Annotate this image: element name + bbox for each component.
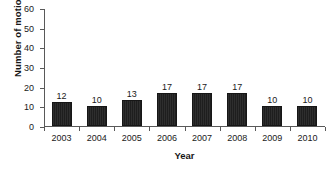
- bar-value-label: 17: [232, 82, 242, 92]
- bar-slot: 17: [185, 9, 220, 126]
- bar-slot: 10: [290, 9, 325, 126]
- x-axis-tick-label: 2006: [149, 133, 184, 143]
- x-axis-title: Year: [44, 150, 325, 161]
- y-axis-tick-label: 50: [24, 24, 34, 34]
- bar-value-label: 10: [267, 95, 277, 105]
- bar-slot: 13: [114, 9, 149, 126]
- x-axis-tick-label: 2005: [114, 133, 149, 143]
- bar-value-label: 10: [92, 95, 102, 105]
- x-axis-tick: [79, 127, 80, 131]
- y-axis-tick-label: 10: [24, 102, 34, 112]
- x-axis-tick: [149, 127, 150, 131]
- x-axis-tick-label: 2007: [185, 133, 220, 143]
- x-axis-tick: [114, 127, 115, 131]
- bar-value-label: 17: [197, 82, 207, 92]
- x-axis-tick-label: 2009: [255, 133, 290, 143]
- bar-chart-figure: Number of motions 6050403020100 12101317…: [0, 0, 333, 171]
- y-axis-tick-label: 40: [24, 43, 34, 53]
- y-axis-tick-label: 60: [24, 4, 34, 14]
- y-axis-tick-label: 0: [29, 122, 34, 132]
- x-axis-tick: [255, 127, 256, 131]
- bar-value-label: 17: [162, 82, 172, 92]
- y-axis-tick-label: 30: [24, 63, 34, 73]
- bar-slot: 12: [44, 9, 79, 126]
- bar-slot: 17: [220, 9, 255, 126]
- x-axis-tick: [185, 127, 186, 131]
- bar-slot: 17: [149, 9, 184, 126]
- y-axis-title: Number of motions: [12, 0, 23, 81]
- bar-slot: 10: [79, 9, 114, 126]
- bar-value-label: 13: [127, 89, 137, 99]
- bar: 10: [87, 106, 107, 126]
- bar: 10: [297, 106, 317, 126]
- x-axis-tick: [44, 127, 45, 131]
- bar-value-label: 12: [57, 91, 67, 101]
- bar: 10: [262, 106, 282, 126]
- x-axis-tick-label: 2010: [290, 133, 325, 143]
- bar-value-label: 10: [302, 95, 312, 105]
- plot-area: 6050403020100 1210131717171010: [44, 9, 325, 127]
- bar: 17: [157, 93, 177, 126]
- bar: 12: [52, 102, 72, 126]
- bar: 17: [227, 93, 247, 126]
- bar-series: 1210131717171010: [44, 9, 325, 126]
- bar-slot: 10: [255, 9, 290, 126]
- y-axis-tick-label: 20: [24, 83, 34, 93]
- x-axis-tick-label: 2004: [79, 133, 114, 143]
- bar: 17: [192, 93, 212, 126]
- x-axis-tick-label: 2003: [44, 133, 79, 143]
- x-axis-tick: [220, 127, 221, 131]
- x-axis-tick-label: 2008: [220, 133, 255, 143]
- bar: 13: [122, 100, 142, 126]
- x-axis-tick: [290, 127, 291, 131]
- x-axis-tick-labels: 20032004200520062007200820092010: [44, 133, 325, 143]
- x-axis-tick: [325, 127, 326, 131]
